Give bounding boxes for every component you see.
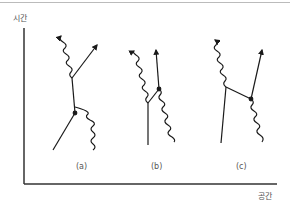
panel-c bbox=[214, 40, 263, 143]
panel-c-label: (c) bbox=[236, 162, 247, 171]
electron-in bbox=[53, 113, 75, 150]
diagram-canvas: 시간 공간 (a) (b) (c) bbox=[0, 0, 290, 210]
electron-out bbox=[156, 50, 159, 89]
photon-in bbox=[159, 89, 175, 142]
axes bbox=[24, 28, 277, 184]
photon-in bbox=[75, 107, 95, 150]
vertex-dot bbox=[157, 87, 161, 91]
panel-a bbox=[53, 36, 97, 150]
electron-out bbox=[251, 50, 262, 99]
electron-out bbox=[72, 45, 97, 78]
electron-internal bbox=[148, 89, 159, 103]
photon-out-left bbox=[133, 51, 148, 103]
panel-b-label: (b) bbox=[151, 162, 162, 171]
panel-b bbox=[133, 50, 174, 145]
vertex-dot bbox=[249, 97, 253, 101]
panel-a-label: (a) bbox=[76, 162, 87, 171]
photon-out bbox=[60, 36, 72, 78]
time-axis-label: 시간 bbox=[13, 13, 28, 23]
vertex-dot bbox=[73, 111, 77, 115]
photon-in bbox=[251, 99, 263, 142]
electron-internal bbox=[226, 87, 251, 99]
electron-in bbox=[221, 87, 226, 143]
electron-internal bbox=[72, 78, 75, 113]
space-axis-label: 공간 bbox=[258, 191, 273, 201]
photon-out bbox=[214, 40, 226, 87]
